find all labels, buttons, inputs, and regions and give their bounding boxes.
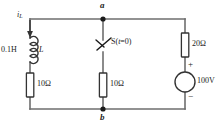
inductor-symbol: [30, 36, 38, 63]
resistor-left-10ohm: [26, 73, 33, 97]
inductor-value-label: 0.1H: [1, 46, 17, 54]
current-subscript: L: [19, 13, 22, 19]
node-dot-b: [100, 106, 105, 111]
node-label-b: b: [100, 113, 105, 122]
resistor-middle-10ohm: [99, 73, 106, 97]
node-dot-a: [100, 16, 105, 21]
resistor-right-20ohm: [181, 33, 188, 57]
voltage-source-symbol: [175, 72, 195, 92]
node-label-a: a: [100, 1, 105, 10]
source-value-label: 100V: [197, 77, 215, 85]
inductor-symbol-label: L: [39, 46, 43, 54]
switch-label: S(t=0): [111, 38, 132, 46]
circuit-diagram: a b iL 0.1H L 10Ω S(t=0) 10Ω 20Ω + − 100…: [0, 0, 223, 133]
current-label-il: iL: [17, 11, 23, 19]
current-arrow-il: [27, 20, 33, 38]
source-plus-sign: +: [188, 60, 193, 69]
resistor-right-value-label: 20Ω: [192, 40, 206, 48]
source-minus-sign: −: [188, 92, 193, 101]
resistor-middle-value-label: 10Ω: [110, 80, 124, 88]
wire-group: [30, 19, 185, 109]
switch-label-suffix: =0): [120, 37, 131, 46]
resistor-left-value-label: 10Ω: [37, 80, 51, 88]
